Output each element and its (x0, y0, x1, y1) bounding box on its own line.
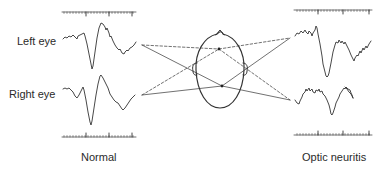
normal-right-eye-trace (63, 75, 135, 125)
vep-diagram (0, 0, 381, 169)
neuritis-connection-lines (219, 38, 290, 100)
neuritis-left-eye-trace (295, 26, 371, 77)
normal-left-eye-trace (63, 23, 136, 69)
neuritis-bottom-scale-bar (294, 131, 372, 135)
normal-top-scale-bar (62, 12, 136, 16)
occipital-electrode (221, 85, 224, 88)
normal-connection-lines (142, 45, 222, 95)
central-electrode (218, 48, 221, 51)
neuritis-top-scale-bar (294, 10, 372, 14)
normal-bottom-scale-bar (62, 133, 136, 137)
neuritis-right-eye-trace (295, 87, 353, 115)
head-icon (193, 30, 248, 108)
